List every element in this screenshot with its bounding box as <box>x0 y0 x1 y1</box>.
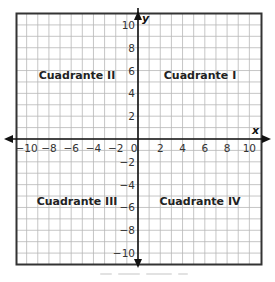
quadrant-iv-label: Cuadrante IV <box>159 195 241 208</box>
x-axis-left-arrow-icon <box>4 135 13 143</box>
coordinate-plane: x y −10−8−6−4−20246810 108642−2−4−6−8−10… <box>0 0 275 282</box>
x-tick-label: 2 <box>157 142 164 154</box>
y-tick-label: 10 <box>122 19 135 31</box>
x-tick-label: −8 <box>41 142 56 154</box>
y-tick-label: −8 <box>120 224 135 236</box>
x-tick-label: 6 <box>201 142 208 154</box>
quadrant-ii-label: Cuadrante II <box>39 69 116 82</box>
x-axis-right-arrow-icon <box>262 135 271 143</box>
x-axis-label: x <box>251 124 260 137</box>
x-tick-label: 8 <box>224 142 231 154</box>
faint-caption <box>0 266 275 282</box>
y-tick-label: 4 <box>128 87 135 99</box>
y-tick-label: −10 <box>113 247 135 259</box>
y-tick-label: −6 <box>120 201 136 213</box>
y-tick-label: 2 <box>128 110 135 122</box>
quadrant-iii-label: Cuadrante III <box>37 195 118 208</box>
x-tick-label: −2 <box>108 142 123 154</box>
y-tick-label: −2 <box>120 156 135 168</box>
y-tick-label: 8 <box>128 42 135 54</box>
x-tick-labels: −10−8−6−4−20246810 <box>16 142 257 154</box>
y-tick-label: −4 <box>120 179 136 191</box>
quadrant-i-label: Cuadrante I <box>164 69 237 82</box>
x-tick-label: −4 <box>86 142 102 154</box>
y-axis: y <box>134 8 150 268</box>
y-axis-up-arrow-icon <box>134 11 142 20</box>
x-tick-label: 10 <box>243 142 256 154</box>
x-tick-label: 0 <box>131 142 138 154</box>
y-tick-label: 6 <box>128 65 135 77</box>
x-tick-label: −10 <box>16 142 38 154</box>
y-axis-label: y <box>142 12 150 25</box>
x-tick-label: −6 <box>63 142 79 154</box>
x-tick-label: 4 <box>179 142 186 154</box>
